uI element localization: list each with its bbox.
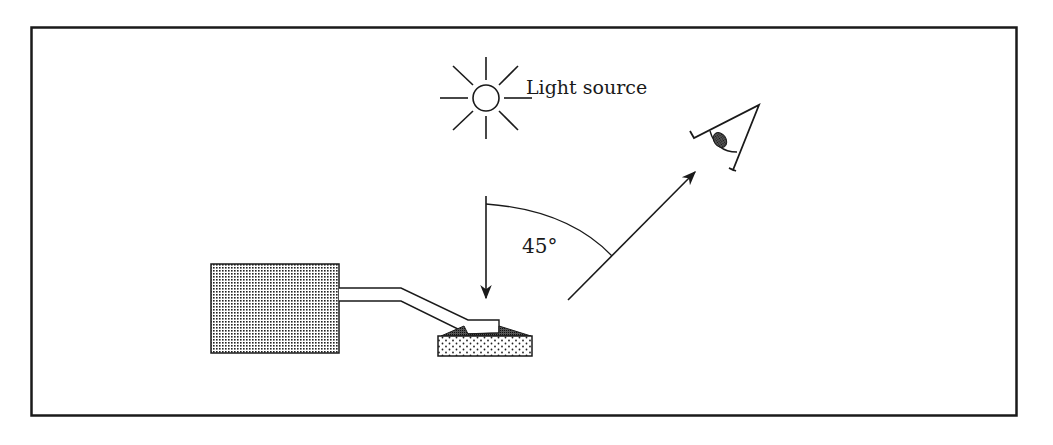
light-source-label: Light source xyxy=(526,76,647,98)
diagram-frame xyxy=(32,28,1017,416)
probe-arm xyxy=(339,288,499,334)
instrument-box xyxy=(211,264,339,353)
light-source-icon xyxy=(440,57,532,139)
diagram-canvas: Light source 45° xyxy=(0,0,1053,445)
angle-label: 45° xyxy=(522,234,557,258)
observer-eye-icon xyxy=(690,105,759,171)
viewing-arrow xyxy=(568,172,695,300)
